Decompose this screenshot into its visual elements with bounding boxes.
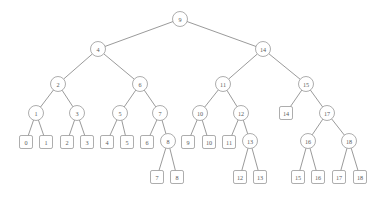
- node-circle-shape: [299, 77, 314, 92]
- node-circle-shape: [51, 77, 66, 92]
- tree-node-15[interactable]: 15: [299, 77, 314, 92]
- tree-edge: [191, 120, 197, 136]
- tree-edge: [351, 148, 358, 170]
- tree-edge: [310, 148, 316, 170]
- tree-edge: [341, 148, 347, 170]
- tree-edge: [162, 120, 166, 134]
- node-square-shape: [101, 136, 114, 149]
- tree-edge: [41, 90, 54, 107]
- tree-edge: [227, 90, 237, 106]
- tree-edge: [232, 120, 238, 136]
- tree-node-1[interactable]: 1: [29, 106, 44, 121]
- binary-search-tree-figure: 9414261115135710121417012345689101113161…: [0, 0, 386, 199]
- node-square-shape: [254, 171, 267, 184]
- tree-node-3[interactable]: 3: [70, 106, 85, 121]
- tree-canvas: 9414261115135710121417012345689101113161…: [0, 0, 386, 199]
- tree-leaf-16[interactable]: 16: [312, 171, 325, 184]
- tree-edge: [69, 120, 74, 135]
- tree-edge: [332, 119, 345, 135]
- node-circle-shape: [153, 106, 168, 121]
- tree-edge: [64, 54, 93, 79]
- tree-node-8[interactable]: 8: [161, 134, 176, 149]
- tree-node-12[interactable]: 12: [234, 106, 249, 121]
- tree-node-7[interactable]: 7: [153, 106, 168, 121]
- tree-leaf-4[interactable]: 4: [101, 136, 114, 149]
- tree-edge: [28, 120, 33, 135]
- node-circle-shape: [320, 106, 335, 121]
- tree-leaf-1[interactable]: 1: [40, 136, 53, 149]
- tree-node-5[interactable]: 5: [113, 106, 128, 121]
- tree-edge: [290, 90, 301, 106]
- tree-leaf-15[interactable]: 15: [292, 171, 305, 184]
- node-square-shape: [333, 171, 346, 184]
- node-square-shape: [151, 171, 164, 184]
- tree-leaf-14[interactable]: 14: [280, 107, 293, 120]
- tree-edge: [159, 148, 166, 170]
- tree-node-11[interactable]: 11: [216, 77, 231, 92]
- tree-edge: [205, 90, 219, 107]
- tree-node-9[interactable]: 9: [173, 12, 188, 27]
- tree-edge: [202, 120, 207, 135]
- tree-leaf-17[interactable]: 17: [333, 171, 346, 184]
- node-square-shape: [81, 136, 94, 149]
- node-circle-shape: [243, 134, 258, 149]
- tree-edge: [144, 90, 155, 107]
- node-circle-shape: [256, 42, 271, 57]
- tree-edge: [310, 90, 322, 107]
- tree-leaf-10[interactable]: 10: [203, 136, 216, 149]
- node-square-shape: [203, 136, 216, 149]
- tree-edge: [252, 148, 258, 170]
- tree-node-2[interactable]: 2: [51, 77, 66, 92]
- tree-leaf-7[interactable]: 7: [151, 171, 164, 184]
- node-circle-shape: [342, 134, 357, 149]
- node-circle-shape: [173, 12, 188, 27]
- tree-leaf-2[interactable]: 2: [61, 136, 74, 149]
- tree-leaf-9[interactable]: 9: [182, 136, 195, 149]
- node-square-shape: [292, 171, 305, 184]
- tree-leaf-11[interactable]: 11: [223, 136, 236, 149]
- node-circle-shape: [70, 106, 85, 121]
- tree-edge: [300, 148, 306, 170]
- tree-node-6[interactable]: 6: [133, 77, 148, 92]
- tree-leaf-8[interactable]: 8: [171, 171, 184, 184]
- tree-leaf-0[interactable]: 0: [20, 136, 33, 149]
- node-square-shape: [141, 136, 154, 149]
- tree-node-18[interactable]: 18: [342, 134, 357, 149]
- node-square-shape: [234, 171, 247, 184]
- node-square-shape: [61, 136, 74, 149]
- tree-leaf-3[interactable]: 3: [81, 136, 94, 149]
- tree-node-4[interactable]: 4: [91, 42, 106, 57]
- tree-edge: [187, 22, 256, 47]
- tree-edge: [79, 120, 84, 135]
- tree-node-16[interactable]: 16: [301, 134, 316, 149]
- tree-edge: [243, 120, 247, 134]
- tree-leaf-12[interactable]: 12: [234, 171, 247, 184]
- tree-edge: [124, 90, 135, 107]
- tree-edge: [269, 54, 300, 80]
- tree-node-14[interactable]: 14: [256, 42, 271, 57]
- node-square-shape: [182, 136, 195, 149]
- node-square-shape: [312, 171, 325, 184]
- tree-edge: [104, 54, 134, 79]
- tree-leaf-13[interactable]: 13: [254, 171, 267, 184]
- tree-leaf-18[interactable]: 18: [354, 171, 367, 184]
- tree-node-10[interactable]: 10: [193, 106, 208, 121]
- tree-edge: [105, 22, 173, 47]
- node-circle-shape: [113, 106, 128, 121]
- tree-node-13[interactable]: 13: [243, 134, 258, 149]
- tree-edge: [62, 90, 73, 106]
- nodes-layer: 9414261115135710121417012345689101113161…: [20, 12, 367, 184]
- node-circle-shape: [161, 134, 176, 149]
- tree-edge: [242, 148, 248, 170]
- node-circle-shape: [133, 77, 148, 92]
- node-square-shape: [171, 171, 184, 184]
- tree-edge: [312, 119, 323, 135]
- tree-edge: [38, 120, 43, 135]
- node-square-shape: [280, 107, 293, 120]
- node-square-shape: [223, 136, 236, 149]
- node-square-shape: [121, 136, 134, 149]
- tree-node-17[interactable]: 17: [320, 106, 335, 121]
- tree-leaf-5[interactable]: 5: [121, 136, 134, 149]
- node-circle-shape: [91, 42, 106, 57]
- tree-leaf-6[interactable]: 6: [141, 136, 154, 149]
